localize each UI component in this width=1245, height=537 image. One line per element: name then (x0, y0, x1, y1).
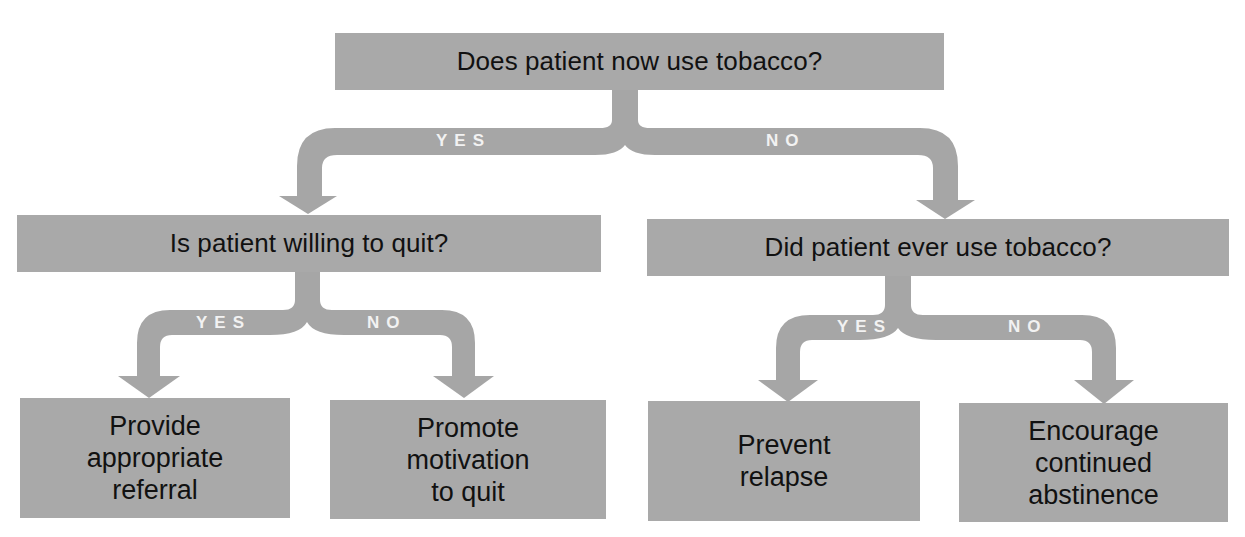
ever-used-tobacco-text: Did patient ever use tobacco? (765, 232, 1112, 263)
outcome-provide-referral: Provide appropriate referral (20, 398, 290, 518)
willing-no-label: NO (367, 313, 407, 333)
willing-to-quit-text: Is patient willing to quit? (170, 228, 449, 259)
ever-no-label: NO (1008, 317, 1048, 337)
willing-yes-label: YES (196, 313, 251, 333)
outcome-line: Encourage (1028, 415, 1159, 447)
outcome-line: abstinence (1028, 479, 1159, 511)
willing-to-quit-box: Is patient willing to quit? (17, 215, 601, 272)
outcome-encourage-abstinence: Encourage continued abstinence (959, 403, 1228, 522)
left-split-arrow-icon (118, 270, 494, 398)
outcome-line: appropriate (87, 442, 224, 474)
outcome-prevent-relapse: Prevent relapse (648, 401, 920, 521)
root-yes-label: YES (436, 131, 491, 151)
outcome-line: motivation (406, 444, 529, 476)
tobacco-decision-tree: Does patient now use tobacco? YES NO Is … (0, 0, 1245, 537)
root-split-arrow-icon (279, 88, 975, 219)
outcome-promote-motivation: Promote motivation to quit (330, 400, 606, 519)
outcome-line: relapse (737, 461, 830, 493)
outcome-line: Promote (406, 412, 529, 444)
ever-used-tobacco-box: Did patient ever use tobacco? (647, 219, 1229, 276)
outcome-line: Provide (87, 410, 224, 442)
outcome-line: continued (1028, 447, 1159, 479)
root-no-label: NO (766, 131, 806, 151)
ever-yes-label: YES (837, 317, 892, 337)
outcome-line: Prevent (737, 429, 830, 461)
outcome-line: referral (87, 474, 224, 506)
root-question-box: Does patient now use tobacco? (335, 33, 944, 90)
right-split-arrow-icon (758, 274, 1134, 404)
root-question-text: Does patient now use tobacco? (457, 46, 823, 77)
outcome-line: to quit (406, 476, 529, 508)
